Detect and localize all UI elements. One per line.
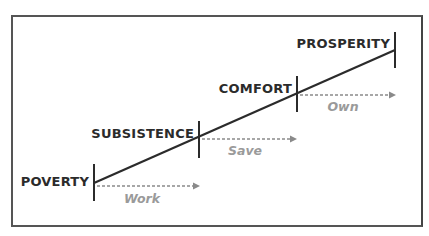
progression-diagram: POVERTY SUBSISTENCE COMFORT PROSPERITY W… [0, 0, 429, 236]
arrowhead-work-icon [193, 183, 200, 190]
arrowhead-own-icon [389, 92, 396, 99]
action-label-own: Own [327, 99, 358, 114]
progression-line [94, 50, 395, 183]
stage-label-poverty: POVERTY [21, 174, 90, 189]
stage-label-subsistence: SUBSISTENCE [91, 126, 194, 141]
stage-label-comfort: COMFORT [219, 81, 292, 96]
arrowhead-save-icon [290, 136, 297, 143]
stage-label-prosperity: PROSPERITY [297, 36, 391, 51]
action-label-save: Save [228, 143, 262, 158]
action-label-work: Work [124, 191, 161, 206]
